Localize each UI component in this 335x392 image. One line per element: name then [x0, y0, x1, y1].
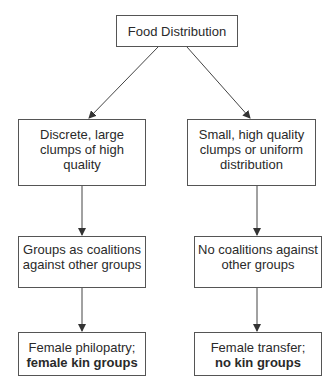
node-no-coalitions: No coalitions against other groups: [194, 236, 322, 288]
node-label-line-1: Female transfer;: [211, 340, 306, 355]
node-label-line-2: against other groups: [23, 257, 142, 272]
node-label-line-2-bold: no kin groups: [215, 355, 301, 370]
node-label-line-1: Small, high quality: [199, 127, 305, 142]
node-label-line-1: No coalitions against: [198, 242, 318, 257]
node-groups-as-coalitions: Groups as coalitions against other group…: [18, 236, 146, 288]
node-food-distribution: Food Distribution: [116, 15, 238, 47]
node-female-transfer: Female transfer; no kin groups: [194, 332, 322, 376]
node-label-line-2: clumps or uniform: [200, 142, 303, 157]
node-small-high-quality-clumps: Small, high quality clumps or uniform di…: [187, 119, 316, 186]
node-label-line-1: Discrete, large: [40, 127, 124, 142]
node-label-line-3: distribution: [220, 157, 283, 172]
node-label-line-3: quality: [63, 157, 101, 172]
node-label-line-2: other groups: [222, 257, 295, 272]
arrow-root-to-right: [187, 47, 250, 118]
node-label-line-2-bold: female kin groups: [26, 355, 137, 370]
node-label-line-2: clumps of high: [40, 142, 124, 157]
node-female-philopatry: Female philopatry; female kin groups: [18, 332, 146, 376]
node-label-line-1: Groups as coalitions: [23, 242, 141, 257]
arrow-root-to-left: [89, 47, 158, 118]
node-label: Food Distribution: [128, 24, 226, 39]
node-label-line-1: Female philopatry;: [29, 340, 136, 355]
node-discrete-large-clumps: Discrete, large clumps of high quality: [18, 119, 146, 186]
